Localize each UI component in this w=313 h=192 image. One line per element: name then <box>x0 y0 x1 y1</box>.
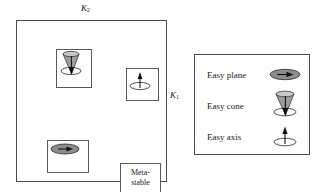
legend-label-easy-plane: Easy plane <box>195 70 262 80</box>
easy-cone-icon <box>57 50 91 87</box>
inset-easy-axis <box>126 68 159 101</box>
axis-label-k2: K2 <box>81 3 90 13</box>
axis-subscript-k1: 1 <box>176 94 179 100</box>
axis-subscript-k2: 2 <box>87 7 90 13</box>
legend-icon-easy-cone-holder <box>262 89 309 122</box>
metastable-label: Meta- stable <box>121 168 160 188</box>
legend-item-easy-axis: Easy axis <box>195 120 309 153</box>
diagram-frame <box>16 20 167 182</box>
legend-box: Easy plane Easy cone <box>194 54 310 155</box>
inset-easy-cone <box>56 49 92 88</box>
easy-plane-icon <box>267 67 303 82</box>
legend-icon-easy-axis-holder <box>262 120 309 153</box>
figure-root: K2 K1 <box>0 0 313 192</box>
easy-axis-icon <box>270 123 300 151</box>
legend-icon-easy-plane-holder <box>262 58 309 91</box>
legend-item-easy-plane: Easy plane <box>195 58 309 91</box>
phase-diagram: Meta- stable <box>16 20 167 182</box>
easy-plane-icon <box>48 141 88 172</box>
inset-metastable: Meta- stable <box>120 163 161 192</box>
easy-cone-icon <box>270 89 300 122</box>
easy-axis-icon <box>127 69 158 100</box>
metastable-label-line2: stable <box>121 178 160 188</box>
metastable-label-line1: Meta- <box>121 168 160 178</box>
inset-easy-plane <box>47 140 89 173</box>
legend-label-easy-axis: Easy axis <box>195 132 262 142</box>
legend-item-easy-cone: Easy cone <box>195 89 309 122</box>
legend-label-easy-cone: Easy cone <box>195 101 262 111</box>
axis-label-k1: K1 <box>170 90 179 100</box>
